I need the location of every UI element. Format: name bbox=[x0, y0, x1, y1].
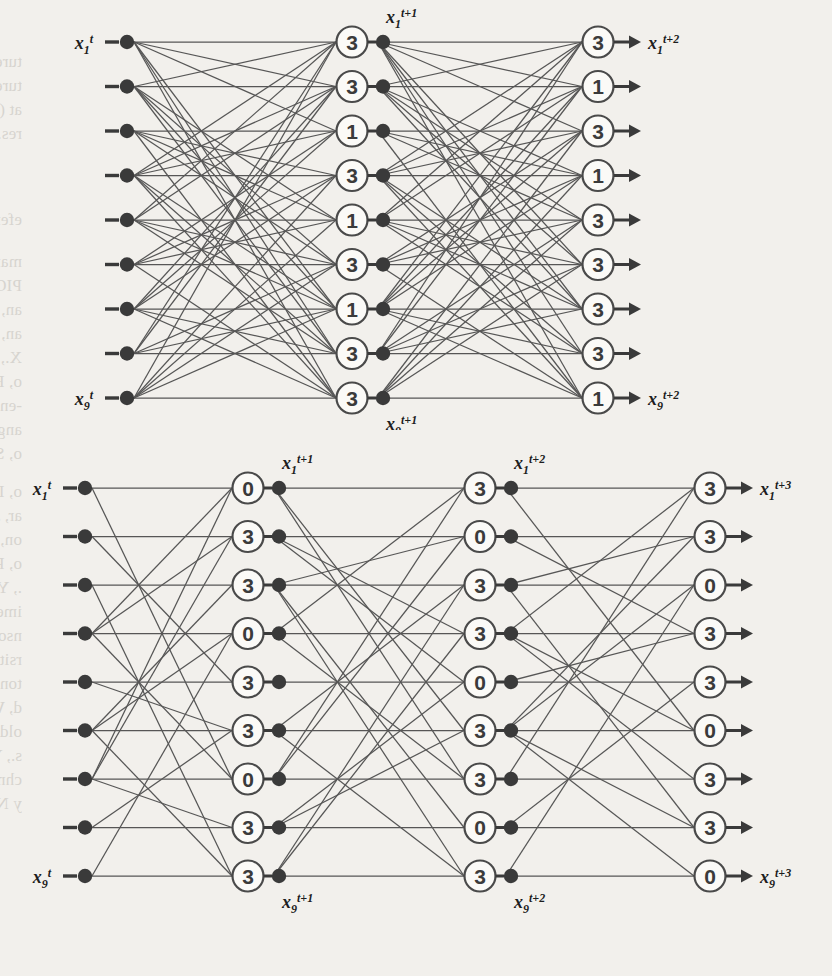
node-index-label: x9t bbox=[74, 388, 94, 413]
input-node[interactable] bbox=[78, 481, 92, 495]
edge-bundle bbox=[92, 488, 694, 876]
gate-node-value: 3 bbox=[704, 671, 716, 694]
top-network-svg: x1tx9t331313133x1t+1x9t+1313133331x1t+2x… bbox=[0, 0, 832, 430]
gate-node-value: 1 bbox=[346, 120, 358, 143]
gate-node-value: 0 bbox=[242, 477, 254, 500]
gate-output-node[interactable] bbox=[376, 302, 390, 316]
gate-output-node[interactable] bbox=[504, 772, 518, 786]
input-node[interactable] bbox=[120, 79, 134, 93]
gate-output-node[interactable] bbox=[504, 529, 518, 543]
gate-node-value: 0 bbox=[704, 719, 716, 742]
input-node[interactable] bbox=[78, 869, 92, 883]
gate-output-node[interactable] bbox=[272, 675, 286, 689]
gate-node-value: 3 bbox=[346, 387, 358, 410]
input-node[interactable] bbox=[78, 820, 92, 834]
gate-output-node[interactable] bbox=[376, 168, 390, 182]
gate-output-node[interactable] bbox=[504, 675, 518, 689]
output-arrow-head bbox=[741, 530, 753, 543]
output-arrow-head bbox=[741, 821, 753, 834]
gate-node-value: 3 bbox=[704, 768, 716, 791]
gate-output-node[interactable] bbox=[272, 723, 286, 737]
gate-node-value: 1 bbox=[346, 298, 358, 321]
node-index-label: x1t+2 bbox=[513, 452, 545, 477]
gate-node-value: 3 bbox=[242, 671, 254, 694]
gate-node-value: 0 bbox=[704, 865, 716, 888]
input-node[interactable] bbox=[78, 723, 92, 737]
gate-output-node[interactable] bbox=[376, 213, 390, 227]
input-node[interactable] bbox=[120, 213, 134, 227]
input-node[interactable] bbox=[120, 124, 134, 138]
node-index-label: x9t+2 bbox=[647, 388, 679, 413]
gate-output-node[interactable] bbox=[376, 35, 390, 49]
input-node[interactable] bbox=[78, 772, 92, 786]
gate-output-node[interactable] bbox=[376, 79, 390, 93]
gate-output-node[interactable] bbox=[504, 626, 518, 640]
gate-output-node[interactable] bbox=[272, 529, 286, 543]
output-arrow-head bbox=[741, 870, 753, 883]
gate-output-node[interactable] bbox=[272, 772, 286, 786]
output-arrow-head bbox=[629, 80, 641, 93]
figure-bottom-network: x1tx9t033033033x1t+1x9t+1303303303x1t+2x… bbox=[0, 430, 832, 976]
gate-node-value: 3 bbox=[704, 477, 716, 500]
output-arrow-head bbox=[629, 36, 641, 49]
gate-node-value: 3 bbox=[592, 120, 604, 143]
gate-output-node[interactable] bbox=[272, 869, 286, 883]
gate-node-value: 3 bbox=[242, 719, 254, 742]
gate-node-value: 3 bbox=[346, 31, 358, 54]
input-node[interactable] bbox=[78, 675, 92, 689]
output-arrow-head bbox=[629, 214, 641, 227]
input-node[interactable] bbox=[120, 168, 134, 182]
gate-node-value: 3 bbox=[346, 342, 358, 365]
gate-node-value: 0 bbox=[474, 671, 486, 694]
gate-output-node[interactable] bbox=[272, 820, 286, 834]
node-index-label: x9t+1 bbox=[281, 891, 313, 916]
output-arrow-head bbox=[741, 579, 753, 592]
gate-output-node[interactable] bbox=[504, 820, 518, 834]
input-node[interactable] bbox=[78, 578, 92, 592]
layer-output: 330330330x1t+3x9t+3 bbox=[695, 473, 792, 892]
input-node[interactable] bbox=[78, 626, 92, 640]
gate-output-node[interactable] bbox=[376, 124, 390, 138]
gate-output-node[interactable] bbox=[504, 723, 518, 737]
gate-node-value: 3 bbox=[474, 865, 486, 888]
layer-hidden1: 331313133x1t+1x9t+1 bbox=[337, 6, 418, 430]
output-arrow-head bbox=[741, 676, 753, 689]
gate-output-node[interactable] bbox=[504, 578, 518, 592]
gate-node-value: 3 bbox=[474, 719, 486, 742]
input-node[interactable] bbox=[120, 391, 134, 405]
output-arrow-head bbox=[629, 258, 641, 271]
gate-output-node[interactable] bbox=[504, 869, 518, 883]
gate-output-node[interactable] bbox=[272, 626, 286, 640]
gate-output-node[interactable] bbox=[376, 257, 390, 271]
gate-node-value: 0 bbox=[242, 768, 254, 791]
gate-output-node[interactable] bbox=[272, 578, 286, 592]
gate-output-node[interactable] bbox=[504, 481, 518, 495]
gate-output-node[interactable] bbox=[376, 346, 390, 360]
layer-output: 313133331x1t+2x9t+2 bbox=[583, 27, 680, 414]
figure-top-network: x1tx9t331313133x1t+1x9t+1313133331x1t+2x… bbox=[0, 0, 832, 430]
gate-node-value: 0 bbox=[474, 525, 486, 548]
gate-node-value: 3 bbox=[592, 31, 604, 54]
output-arrow-head bbox=[741, 482, 753, 495]
input-node[interactable] bbox=[120, 35, 134, 49]
gate-output-node[interactable] bbox=[272, 481, 286, 495]
input-node[interactable] bbox=[120, 257, 134, 271]
gate-node-value: 3 bbox=[242, 525, 254, 548]
layer-input: x1tx9t bbox=[32, 478, 93, 891]
layer-input: x1tx9t bbox=[74, 32, 135, 413]
output-arrow-head bbox=[741, 724, 753, 737]
gate-node-value: 0 bbox=[242, 622, 254, 645]
gate-node-value: 0 bbox=[704, 574, 716, 597]
output-arrow-head bbox=[741, 627, 753, 640]
gate-node-value: 3 bbox=[474, 768, 486, 791]
node-index-label: x9t+1 bbox=[385, 413, 417, 430]
node-index-label: x9t bbox=[32, 866, 52, 891]
node-index-label: x9t+2 bbox=[513, 891, 545, 916]
gate-output-node[interactable] bbox=[376, 391, 390, 405]
gate-node-value: 3 bbox=[704, 622, 716, 645]
gate-node-value: 1 bbox=[346, 209, 358, 232]
output-arrow-head bbox=[629, 303, 641, 316]
input-node[interactable] bbox=[120, 302, 134, 316]
input-node[interactable] bbox=[78, 529, 92, 543]
input-node[interactable] bbox=[120, 346, 134, 360]
